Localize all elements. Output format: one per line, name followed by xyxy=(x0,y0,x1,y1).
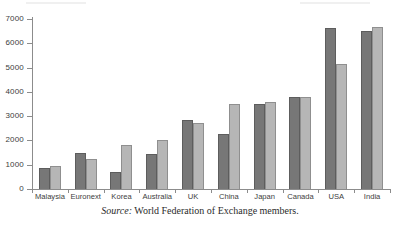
y-axis-tick-label: 0 xyxy=(0,185,24,193)
x-axis-label: Euronext xyxy=(68,192,104,201)
bar-group-bars xyxy=(104,19,140,189)
bar-group-bars xyxy=(354,19,390,189)
bar xyxy=(361,31,372,189)
bar xyxy=(157,140,168,189)
x-axis-label: USA xyxy=(318,192,354,201)
x-axis-label: Australia xyxy=(139,192,175,201)
x-axis-label: Canada xyxy=(283,192,319,201)
bar xyxy=(218,134,229,189)
x-axis-label: Korea xyxy=(104,192,140,201)
bar xyxy=(289,97,300,189)
bar xyxy=(325,28,336,190)
bar xyxy=(193,123,204,189)
bar xyxy=(372,27,383,189)
bar-group-bars xyxy=(139,19,175,189)
bar-group-bars xyxy=(318,19,354,189)
bar xyxy=(254,104,265,189)
bar-group xyxy=(283,19,319,189)
y-axis-tick-label: 6000 xyxy=(0,39,24,47)
bar-group-bars xyxy=(68,19,104,189)
x-axis-label: India xyxy=(354,192,390,201)
y-axis-tick-label: 7000 xyxy=(0,15,24,23)
bar-group xyxy=(32,19,68,189)
bar-group-bars xyxy=(283,19,319,189)
bar xyxy=(50,166,61,189)
x-axis-label: UK xyxy=(175,192,211,201)
bar-group xyxy=(211,19,247,189)
bar-group-bars xyxy=(211,19,247,189)
x-axis-tick xyxy=(390,189,391,193)
bar-group-bars xyxy=(247,19,283,189)
bar-group xyxy=(104,19,140,189)
caption-source-label: Source: xyxy=(101,205,132,216)
scan-artifact xyxy=(300,2,370,4)
bar-group-bars xyxy=(32,19,68,189)
x-axis-label: Malaysia xyxy=(32,192,68,201)
bar xyxy=(75,153,86,189)
bar xyxy=(336,64,347,189)
bar-chart: 01000200030004000500060007000 MalaysiaEu… xyxy=(0,0,400,225)
bar xyxy=(182,120,193,189)
chart-caption: Source: World Federation of Exchange mem… xyxy=(0,205,400,217)
bar xyxy=(265,102,276,189)
bar-group xyxy=(175,19,211,189)
y-axis-tick-label: 5000 xyxy=(0,64,24,72)
bar-group xyxy=(247,19,283,189)
bar xyxy=(146,154,157,189)
bar xyxy=(110,172,121,189)
plot-area xyxy=(32,19,390,189)
bar xyxy=(39,168,50,189)
x-axis-label: China xyxy=(211,192,247,201)
x-axis-label: Japan xyxy=(247,192,283,201)
bar xyxy=(86,159,97,189)
bar xyxy=(121,145,132,189)
bar-group-bars xyxy=(175,19,211,189)
scan-artifact xyxy=(26,2,86,4)
bar-group xyxy=(68,19,104,189)
caption-text: World Federation of Exchange members. xyxy=(132,205,299,216)
bar xyxy=(300,97,311,189)
bar xyxy=(229,104,240,189)
y-axis-tick-label: 4000 xyxy=(0,88,24,96)
y-axis-tick-label: 2000 xyxy=(0,136,24,144)
y-axis-tick-label: 3000 xyxy=(0,112,24,120)
bar-group xyxy=(354,19,390,189)
y-axis-tick-label: 1000 xyxy=(0,161,24,169)
bar-group xyxy=(139,19,175,189)
bar-group xyxy=(318,19,354,189)
